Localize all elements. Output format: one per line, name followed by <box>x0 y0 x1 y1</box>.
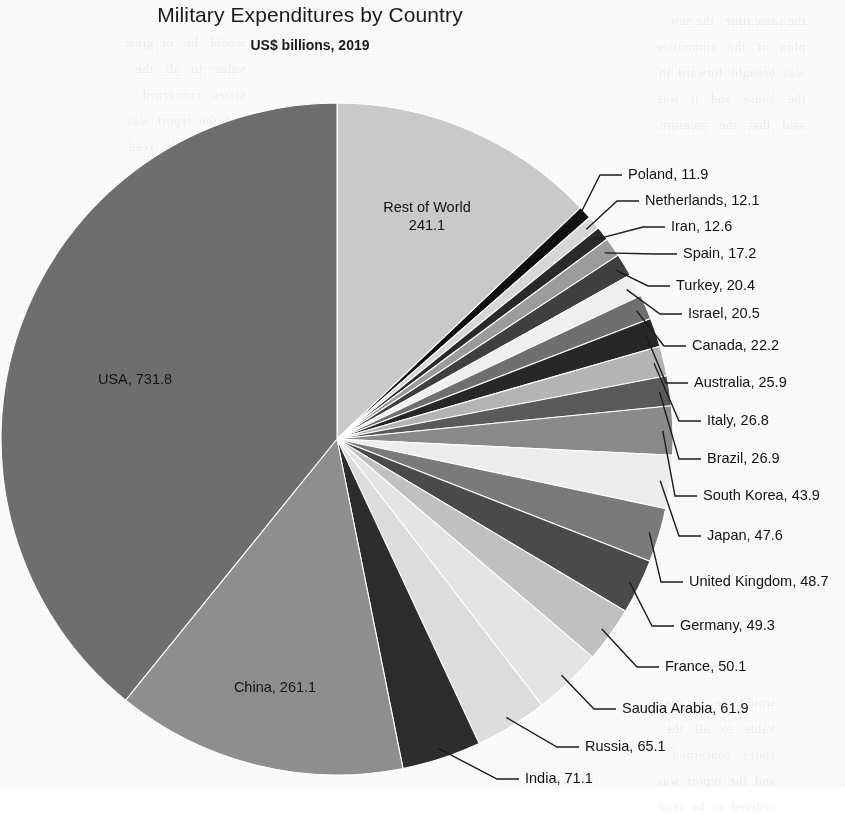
pie-slice-label: Iran, 12.6 <box>671 218 732 235</box>
pie-slice-label: Israel, 20.5 <box>688 305 760 322</box>
pie-slice-label: Australia, 25.9 <box>694 374 787 391</box>
pie-slice-label: Netherlands, 12.1 <box>645 192 759 209</box>
pie-slice-label: Brazil, 26.9 <box>707 450 780 467</box>
pie-slices <box>1 103 673 775</box>
pie-slice-label: Russia, 65.1 <box>585 738 666 755</box>
pie-slice-label: Turkey, 20.4 <box>676 277 755 294</box>
chart-header: Military Expenditures by Country US$ bil… <box>0 0 620 54</box>
pie-slice-label: Poland, 11.9 <box>628 166 708 183</box>
pie-slice-label: Rest of World241.1 <box>347 198 507 234</box>
pie-slice-label: Spain, 17.2 <box>683 245 756 262</box>
pie-slice-label: India, 71.1 <box>525 770 593 787</box>
pie-slice-label: Saudia Arabia, 61.9 <box>622 700 749 717</box>
pie-slice-label: China, 261.1 <box>195 678 355 696</box>
pie-slice-label: France, 50.1 <box>665 658 746 675</box>
pie-slice-label: USA, 731.8 <box>55 370 215 388</box>
pie-slice-label: United Kingdom, 48.7 <box>689 573 828 590</box>
pie-slice-label: Canada, 22.2 <box>692 337 779 354</box>
pie-slice-label-name: Rest of World <box>383 199 471 215</box>
pie-slice-label: Japan, 47.6 <box>707 527 783 544</box>
chart-title: Military Expenditures by Country <box>0 0 620 28</box>
pie-slice-label: Germany, 49.3 <box>680 617 775 634</box>
pie-slice-label: South Korea, 43.9 <box>703 487 820 504</box>
pie-slice-label-value: 241.1 <box>347 216 507 234</box>
pie-slice-label: Italy, 26.8 <box>707 412 769 429</box>
chart-subtitle: US$ billions, 2019 <box>0 28 620 54</box>
